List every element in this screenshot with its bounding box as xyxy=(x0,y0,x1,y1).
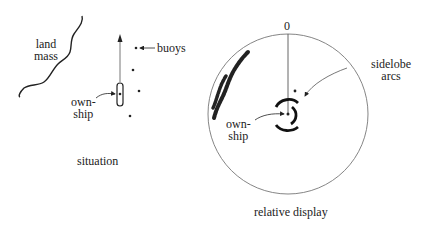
sidelobe-arcs-label: sidelobe arcs xyxy=(371,58,411,82)
buoys xyxy=(129,47,141,118)
buoy-2 xyxy=(132,69,135,72)
land-echo-returns xyxy=(213,52,248,118)
land-mass-label: land mass xyxy=(34,38,58,62)
relative-display-caption: relative display xyxy=(254,206,328,218)
buoy-3 xyxy=(138,90,141,93)
ownship-pointer-arrow-situation xyxy=(96,93,115,98)
bearing-zero-label: 0 xyxy=(284,20,290,32)
buoys-label: buoys xyxy=(157,42,186,54)
ownship-label-display: own- ship xyxy=(226,118,251,142)
ownship-pointer-arrow-display xyxy=(255,114,284,120)
sidelobe-pointer-arrow xyxy=(305,68,347,96)
ownship-heading-arrow xyxy=(118,34,123,82)
buoy-echo xyxy=(294,90,297,93)
ownship-label-situation: own- ship xyxy=(71,96,96,120)
buoy-4 xyxy=(129,115,132,118)
situation-caption: situation xyxy=(77,155,118,167)
ownship-icon xyxy=(117,83,123,106)
buoy-1 xyxy=(135,47,138,50)
ownship-echo xyxy=(287,113,290,116)
